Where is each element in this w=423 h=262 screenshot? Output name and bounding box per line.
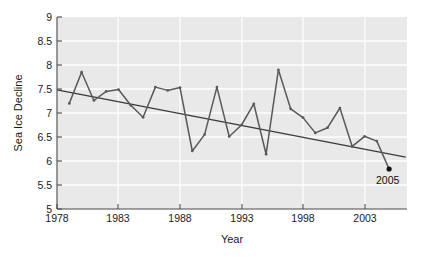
y-tick-label: 7.5 <box>37 83 52 95</box>
y-tick-label: 6.5 <box>37 131 52 143</box>
y-axis-title: Sea Ice Decline <box>12 74 24 151</box>
x-axis-tick-labels: 1978 1983 1988 1993 1998 2003 <box>45 212 377 224</box>
y-tick-label: 7 <box>46 107 52 119</box>
final-point-marker <box>387 166 392 171</box>
x-tick-label: 2003 <box>353 212 377 224</box>
x-tick-label: 1993 <box>230 212 254 224</box>
x-axis-title: Year <box>221 233 244 245</box>
y-tick-label: 5.5 <box>37 179 52 191</box>
x-tick-label: 1978 <box>45 212 69 224</box>
x-tick-label: 1988 <box>168 212 192 224</box>
y-tick-label: 8.5 <box>37 35 52 47</box>
annotation-2005: 2005 <box>376 174 400 186</box>
y-axis-tick-labels: 9 8.5 8 7.5 7 6.5 6 5.5 5 <box>37 11 52 215</box>
y-tick-label: 8 <box>46 59 52 71</box>
y-tick-label: 6 <box>46 155 52 167</box>
y-tick-label: 9 <box>46 11 52 23</box>
x-tick-label: 1983 <box>106 212 130 224</box>
sea-ice-decline-chart: 2005 9 8.5 8 7.5 7 6.5 6 5.5 5 1978 <box>0 0 423 262</box>
x-tick-label: 1998 <box>291 212 315 224</box>
